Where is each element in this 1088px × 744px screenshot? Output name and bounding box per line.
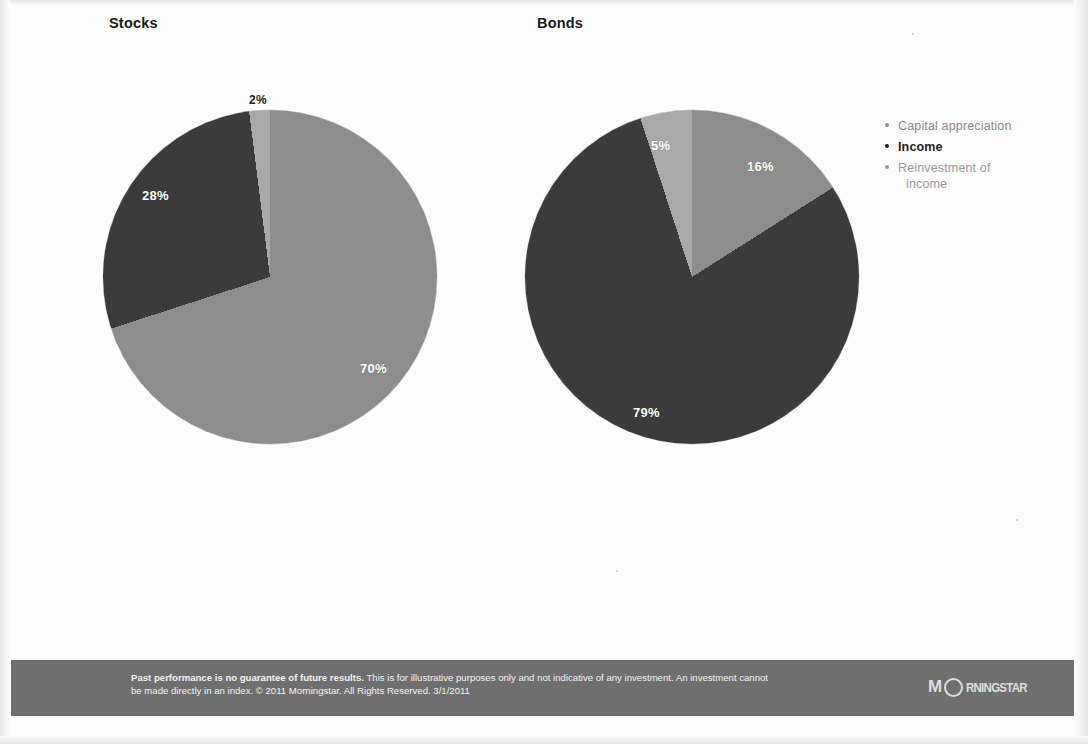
legend-item-reinvestment-of-income: Reinvestment of income <box>884 160 1064 192</box>
pie-slice-label-bonds-capital-appreciation: 16% <box>747 159 774 174</box>
footer-disclaimer-bar: Past performance is no guarantee of futu… <box>11 660 1074 716</box>
footer-disclaimer-bold-lead: Past performance is no guarantee of futu… <box>131 672 364 683</box>
chart-legend: Capital appreciation Income Reinvestment… <box>884 118 1064 197</box>
pie-slice-label-stocks-income: 28% <box>142 188 169 203</box>
pie-slice-label-bonds-income: 79% <box>633 405 660 420</box>
legend-bullet-icon <box>885 144 889 148</box>
legend-label-reinvestment-of-income-line2: income <box>898 176 1064 192</box>
legend-label-capital-appreciation: Capital appreciation <box>898 119 1012 133</box>
morningstar-m-icon: M <box>928 677 941 697</box>
scan-speck <box>912 33 914 35</box>
pie-chart-bonds <box>525 110 859 444</box>
page-edge-top <box>0 0 1088 6</box>
legend-label-income: Income <box>898 140 943 154</box>
scan-speck <box>1016 519 1018 521</box>
chart-title-stocks: Stocks <box>109 15 158 31</box>
legend-label-reinvestment-of-income: Reinvestment of <box>898 161 991 175</box>
pie-slice-label-bonds-reinvestment: 5% <box>651 138 670 153</box>
footer-disclaimer-line1-rest: This is for illustrative purposes only a… <box>364 672 768 683</box>
pie-slice-label-stocks-capital-appreciation: 70% <box>360 361 387 376</box>
footer-disclaimer-text: Past performance is no guarantee of futu… <box>131 671 901 697</box>
page-edge-left <box>0 0 10 744</box>
pie-slice-label-stocks-reinvestment: 2% <box>249 93 267 107</box>
legend-item-capital-appreciation: Capital appreciation <box>884 118 1064 134</box>
page-edge-right <box>1074 0 1088 744</box>
pie-stocks-slices <box>103 110 437 444</box>
footer-disclaimer-line2: be made directly in an index. © 2011 Mor… <box>131 685 470 696</box>
morningstar-wordmark: RNINGSTAR <box>966 680 1027 695</box>
page-edge-bottom <box>0 736 1088 744</box>
pie-bonds-slices <box>525 110 859 444</box>
morningstar-logo: M RNINGSTAR <box>928 674 1052 700</box>
legend-item-income: Income <box>884 139 1064 155</box>
legend-bullet-icon <box>885 123 889 127</box>
pie-chart-stocks <box>103 110 437 444</box>
legend-bullet-icon <box>885 165 889 169</box>
chart-page: Stocks 2% 28% 70% Bonds 5% 16% 79% Capit… <box>0 0 1088 744</box>
chart-title-bonds: Bonds <box>537 15 583 31</box>
morningstar-circle-icon <box>944 678 963 697</box>
scan-speck <box>616 570 618 572</box>
